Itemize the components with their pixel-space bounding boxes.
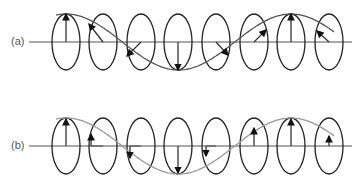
vector-arrow-icon xyxy=(317,31,329,42)
wave-diagram xyxy=(0,0,362,181)
vector-arrow-icon xyxy=(254,30,266,42)
